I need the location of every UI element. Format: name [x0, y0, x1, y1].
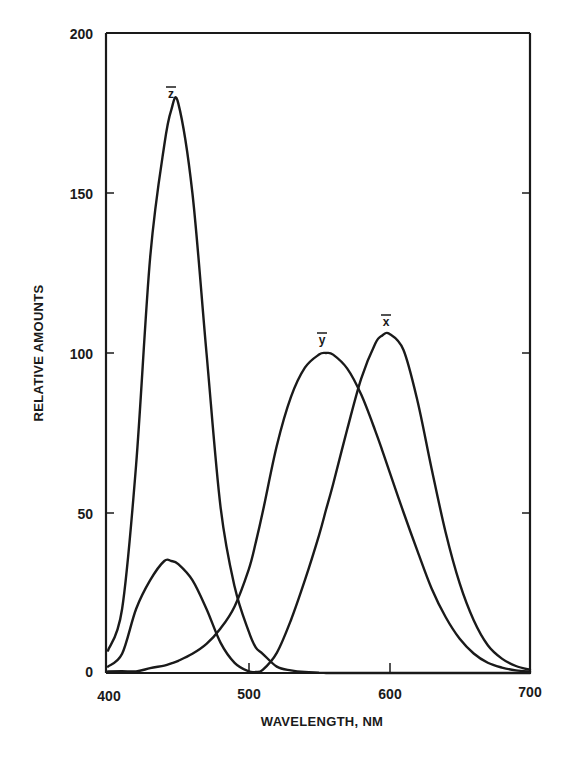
x-bar-label: x: [383, 315, 390, 329]
x-tick-400: 400: [97, 688, 121, 704]
x-tick-500: 500: [237, 686, 261, 702]
z-bar-label: z: [168, 87, 174, 101]
x-tick-700: 700: [518, 684, 542, 700]
y-axis-title: RELATIVE AMOUNTS: [31, 284, 46, 421]
x-axis-title: WAVELENGTH, NM: [261, 714, 383, 729]
curves: [108, 97, 530, 673]
y-tick-150: 150: [70, 186, 94, 202]
x-tick-labels: 400 500 600 700: [97, 684, 542, 704]
y-tick-100: 100: [70, 346, 94, 362]
curve-label-x: x: [381, 315, 391, 329]
curve-label-y: y: [317, 333, 327, 347]
y-tick-0: 0: [85, 664, 93, 680]
y-tick-200: 200: [70, 26, 94, 42]
x-tick-600: 600: [378, 686, 402, 702]
curve-z-bar: [108, 97, 530, 673]
curve-x-bar: [108, 333, 530, 673]
plot-frame: [106, 33, 530, 673]
curve-y-bar: [108, 353, 530, 672]
y-tick-labels: 200 150 100 50 0: [70, 26, 94, 680]
chart: 200 150 100 50 0 400 500 600 700 WAVELEN…: [0, 0, 567, 761]
y-tick-50: 50: [77, 506, 93, 522]
y-bar-label: y: [319, 333, 326, 347]
